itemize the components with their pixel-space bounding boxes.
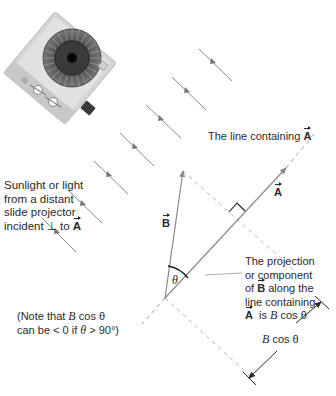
projection-line-4: line containing — [245, 296, 315, 310]
vector-a-symbol: A — [274, 186, 282, 199]
light-source-label: Sunlight or light from a distant slide p… — [4, 179, 83, 233]
projection-line-2: or component — [245, 269, 315, 283]
light-ray-arrow-icon — [94, 161, 128, 194]
projection-line-3-suffix: along the — [265, 282, 313, 294]
vector-b-label: B — [162, 217, 170, 230]
light-source-line-3: slide projector — [4, 206, 83, 220]
vector-a-symbol: A — [245, 309, 253, 323]
note-cos-theta: cos θ — [76, 310, 105, 322]
light-source-line-1: Sunlight or light — [4, 179, 83, 193]
light-ray-arrow-icon — [172, 77, 206, 110]
note-line-2-prefix: can be < 0 if — [17, 324, 80, 336]
projection-line-5: A is B cos θ — [245, 309, 315, 323]
projection-line-3-prefix: of — [245, 282, 257, 294]
projection-cos-theta: cos θ — [277, 309, 306, 321]
slide-projector-icon — [4, 12, 117, 125]
line-containing-text: The line containing — [208, 130, 303, 142]
light-ray-arrow-icon — [146, 105, 181, 138]
dimension-cos-theta: cos θ — [269, 333, 298, 345]
light-source-line-4: incident ⊥ to A — [4, 220, 83, 234]
note-line-1-prefix: (Note that — [17, 310, 68, 322]
note-line-2: can be < 0 if θ > 90°) — [17, 323, 119, 337]
right-angle-marker — [229, 203, 245, 212]
dimension-label: B cos θ — [262, 333, 299, 346]
vector-b-symbol: B — [162, 217, 170, 230]
note-line-2-end: > 90°) — [86, 324, 119, 336]
projection-label: The projection or component of B along t… — [245, 255, 315, 323]
theta-label: θ — [172, 274, 178, 287]
projection-line-3: of B along the — [245, 282, 315, 296]
line-containing-a-label: The line containing A — [208, 130, 311, 143]
vector-a-label: A — [274, 186, 282, 199]
note-label: (Note that B cos θ can be < 0 if θ > 90°… — [17, 309, 119, 337]
light-source-line-4-text: incident ⊥ to — [4, 220, 73, 232]
vector-a-symbol: A — [73, 220, 81, 234]
projection-line-5-mid: is — [253, 309, 270, 321]
light-source-line-2: from a distant — [4, 193, 83, 207]
note-line-1: (Note that B cos θ — [17, 309, 119, 323]
vector-a-symbol: A — [303, 130, 311, 143]
vector-b-symbol: B — [257, 282, 265, 296]
projection-leader-line — [205, 273, 242, 275]
projection-line-1: The projection — [245, 255, 315, 269]
light-ray-arrow-icon — [199, 49, 232, 81]
note-b-symbol: B — [68, 309, 75, 323]
light-ray-arrow-icon — [120, 133, 154, 166]
